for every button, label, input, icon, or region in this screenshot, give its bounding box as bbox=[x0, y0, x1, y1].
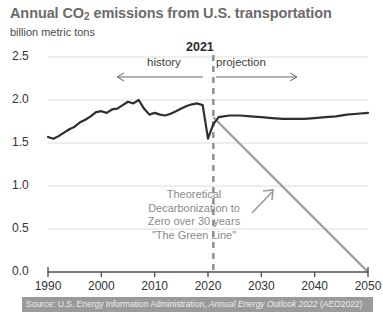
axis-lines bbox=[48, 267, 368, 277]
y-tick-label: 2.5 bbox=[12, 49, 29, 63]
series-projection-line bbox=[213, 113, 368, 124]
y-tick-label: 2.0 bbox=[12, 92, 29, 106]
gridlines bbox=[48, 57, 368, 272]
x-tick-label: 2030 bbox=[238, 279, 284, 293]
series-green-line bbox=[213, 117, 368, 272]
annotation-arrow-icon bbox=[252, 190, 273, 213]
source-text: Source: U.S. Energy Information Administ… bbox=[26, 299, 362, 309]
source-tail: (AEO2022) bbox=[318, 299, 363, 309]
chart-root: Annual CO2 emissions from U.S. transport… bbox=[0, 0, 383, 330]
source-prefix: Source: U.S. Energy Information Administ… bbox=[26, 299, 209, 309]
x-tick-label: 1990 bbox=[25, 279, 71, 293]
x-tick-label: 2020 bbox=[185, 279, 231, 293]
y-tick-label: 0.0 bbox=[12, 264, 29, 278]
y-tick-label: 0.5 bbox=[12, 221, 29, 235]
phase-arrows bbox=[117, 73, 297, 81]
series-history-line bbox=[48, 100, 213, 139]
x-tick-label: 2040 bbox=[292, 279, 338, 293]
y-tick-label: 1.0 bbox=[12, 178, 29, 192]
y-tick-label: 1.5 bbox=[12, 135, 29, 149]
x-tick-label: 2050 bbox=[345, 279, 383, 293]
x-tick-label: 2010 bbox=[132, 279, 178, 293]
x-tick-label: 2000 bbox=[78, 279, 124, 293]
source-publication: Annual Energy Outlook 2022 bbox=[209, 299, 318, 309]
